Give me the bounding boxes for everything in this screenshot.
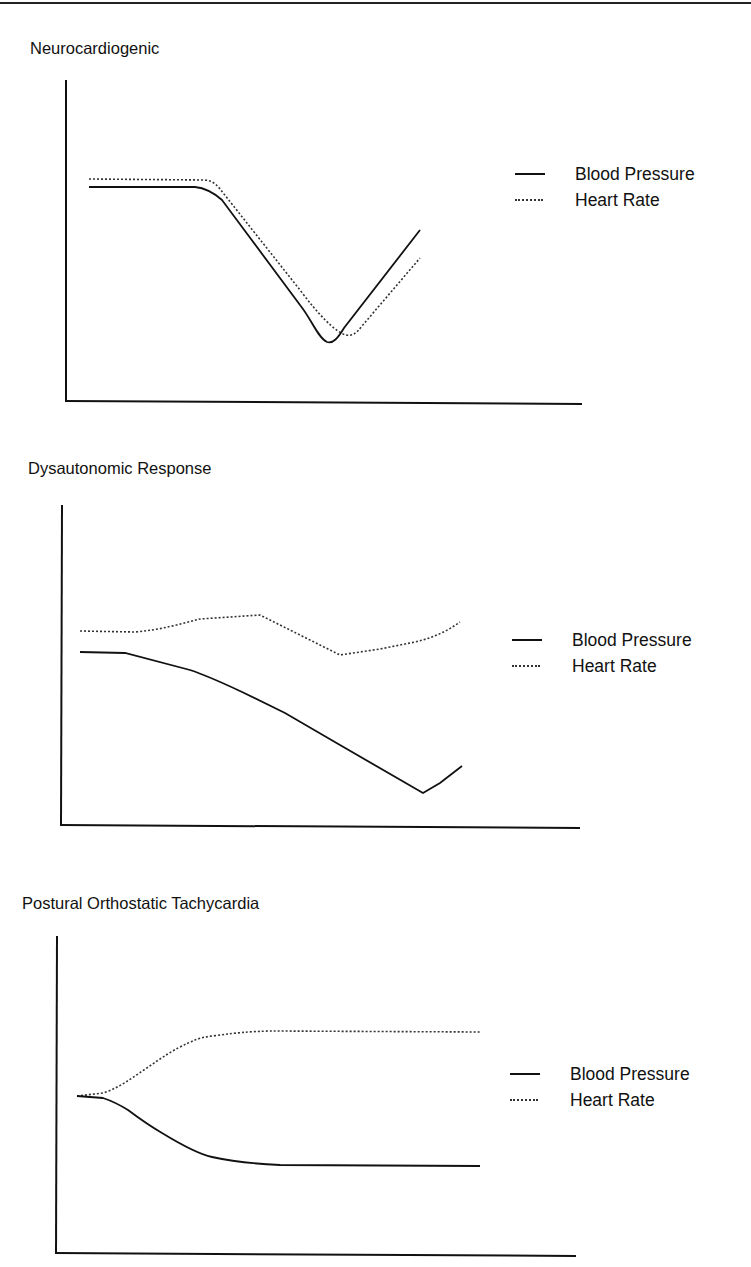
dotted-line-icon — [512, 665, 540, 667]
legend-label: Heart Rate — [575, 187, 660, 213]
series-blood-pressure — [77, 1096, 480, 1166]
dotted-line-icon — [515, 199, 543, 201]
legend-dysautonomic-response: Blood Pressure Heart Rate — [512, 627, 692, 679]
chart-neurocardiogenic — [65, 80, 582, 404]
chart-dysautonomic-response — [60, 505, 580, 828]
series-heart-rate — [80, 615, 460, 655]
legend-label: Heart Rate — [572, 653, 657, 679]
y-axis — [61, 505, 62, 826]
legend-item-blood-pressure: Blood Pressure — [510, 1061, 690, 1087]
legend-item-heart-rate: Heart Rate — [515, 187, 695, 213]
chart-postural-orthostatic-tachycardia — [55, 936, 576, 1256]
legend-label: Blood Pressure — [572, 627, 692, 653]
legend-item-blood-pressure: Blood Pressure — [515, 161, 695, 187]
x-axis — [55, 1253, 576, 1256]
dotted-line-icon — [510, 1099, 538, 1101]
page-header-rule — [0, 2, 751, 4]
legend-item-heart-rate: Heart Rate — [512, 653, 692, 679]
solid-line-icon — [512, 639, 542, 641]
series-heart-rate — [77, 1031, 480, 1096]
chart-title-postural-orthostatic-tachycardia: Postural Orthostatic Tachycardia — [22, 893, 259, 913]
legend-label: Heart Rate — [570, 1087, 655, 1113]
solid-line-icon — [510, 1073, 540, 1075]
series-blood-pressure — [89, 187, 420, 342]
legend-label: Blood Pressure — [570, 1061, 690, 1087]
series-heart-rate — [89, 179, 420, 335]
legend-item-blood-pressure: Blood Pressure — [512, 627, 692, 653]
legend-neurocardiogenic: Blood Pressure Heart Rate — [515, 161, 695, 213]
x-axis — [60, 825, 580, 828]
y-axis — [56, 936, 57, 1254]
chart-title-neurocardiogenic: Neurocardiogenic — [30, 38, 159, 58]
solid-line-icon — [515, 173, 545, 175]
legend-postural-orthostatic-tachycardia: Blood Pressure Heart Rate — [510, 1061, 690, 1113]
series-blood-pressure — [80, 652, 462, 793]
legend-item-heart-rate: Heart Rate — [510, 1087, 690, 1113]
legend-label: Blood Pressure — [575, 161, 695, 187]
chart-title-dysautonomic-response: Dysautonomic Response — [28, 458, 211, 478]
x-axis — [65, 401, 582, 404]
